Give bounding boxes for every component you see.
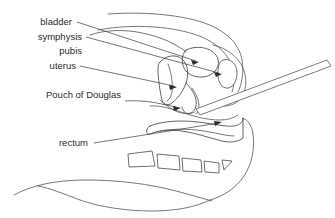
thigh-outline [14, 180, 212, 201]
leader-line-bladder [77, 22, 196, 61]
label-symphysis: symphysis [38, 31, 83, 42]
arrow-head-pouch-of-douglas [173, 106, 181, 111]
buttock-outline [38, 186, 210, 211]
diagram-page: bladder symphysis pubis uterus Pouch of … [0, 0, 335, 218]
label-rectum: rectum [59, 137, 88, 148]
peritoneum-outline [90, 31, 186, 52]
uterine-cavity-line [167, 64, 172, 101]
vertebra-2 [157, 154, 180, 170]
leader-line-symphysis [86, 37, 219, 73]
instrument-rod [196, 60, 331, 115]
label-pubis: pubis [59, 45, 82, 56]
coccyx-tip [222, 160, 232, 170]
label-uterus: uterus [50, 60, 77, 71]
abdominal-wall-inner-outline [98, 26, 234, 92]
vertebra-1 [128, 151, 155, 167]
label-pouch-of-douglas: Pouch of Douglas [46, 89, 121, 100]
label-bladder: bladder [40, 16, 72, 27]
anatomy-diagram: bladder symphysis pubis uterus Pouch of … [0, 0, 335, 218]
vertebra-3 [182, 158, 202, 172]
sacrum-edge [210, 118, 254, 200]
pouch-of-douglas-outline [160, 100, 195, 114]
pelvic-floor-outline [150, 106, 238, 120]
leader-line-rectum [94, 123, 219, 143]
vertebra-4 [204, 161, 219, 173]
leader-line-uterus [80, 66, 174, 86]
